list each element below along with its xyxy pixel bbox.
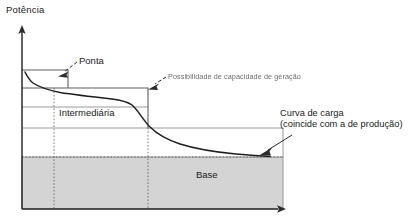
ponta-leader-arrow-icon — [58, 72, 69, 78]
capacidade-geracao-label: Possibilidade de capacidade de geração — [168, 73, 301, 81]
curva-de-carga-line1: Curva de carga — [280, 108, 344, 118]
intermediaria-label: Intermediária — [59, 108, 114, 119]
step-block-level4 — [22, 128, 283, 157]
y-axis-label: Potência — [6, 5, 45, 16]
curva-de-carga-annotation: Curva de carga (coincide com a de produç… — [280, 108, 402, 129]
capacidade-leader-line — [155, 77, 166, 84]
base-region-fill — [22, 157, 283, 209]
curva-de-carga-line2: (coincide com a de produção) — [280, 119, 402, 130]
ponta-leader-line — [64, 62, 77, 72]
capacidade-leader-arrow-icon — [148, 84, 159, 91]
base-label: Base — [196, 170, 218, 181]
ponta-label: Ponta — [79, 56, 104, 67]
load-curve-diagram: Potência Ponta Intermediária Base Possib… — [0, 0, 410, 222]
